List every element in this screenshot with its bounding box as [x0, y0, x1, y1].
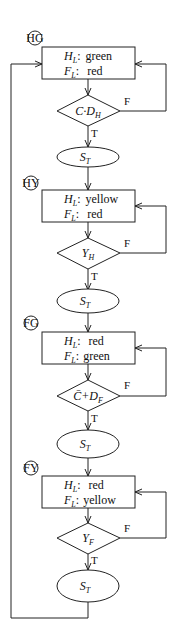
state-tag: FY — [23, 461, 39, 475]
farm-light-line: FL:green — [63, 349, 110, 365]
state-fy: FY HL:red FL:yellow YF F T ST — [23, 461, 166, 602]
false-label: F — [124, 95, 130, 107]
true-label: T — [91, 270, 98, 282]
true-label: T — [91, 412, 98, 424]
highway-light-line: HL:green — [63, 49, 112, 65]
true-label: T — [91, 554, 98, 566]
state-tag: FG — [23, 316, 39, 330]
flowchart: HG HL:green FL:red C·DH F T ST HY HL:yel… — [0, 0, 178, 639]
true-label: T — [91, 127, 98, 139]
state-hg: HG HL:green FL:red C·DH F T ST — [26, 31, 166, 190]
state-tag: HY — [22, 176, 40, 190]
highway-light-line: HL:yellow — [63, 192, 118, 208]
false-label: F — [124, 237, 130, 249]
farm-light-line: FL:yellow — [63, 493, 116, 509]
false-label: F — [124, 522, 130, 534]
false-label: F — [124, 379, 130, 391]
state-tag: HG — [26, 31, 44, 45]
state-hy: HY HL:yellow FL:red YH F T ST — [22, 176, 166, 332]
state-fg: FG HL:red FL:green C̄+DF F T ST — [23, 316, 166, 476]
